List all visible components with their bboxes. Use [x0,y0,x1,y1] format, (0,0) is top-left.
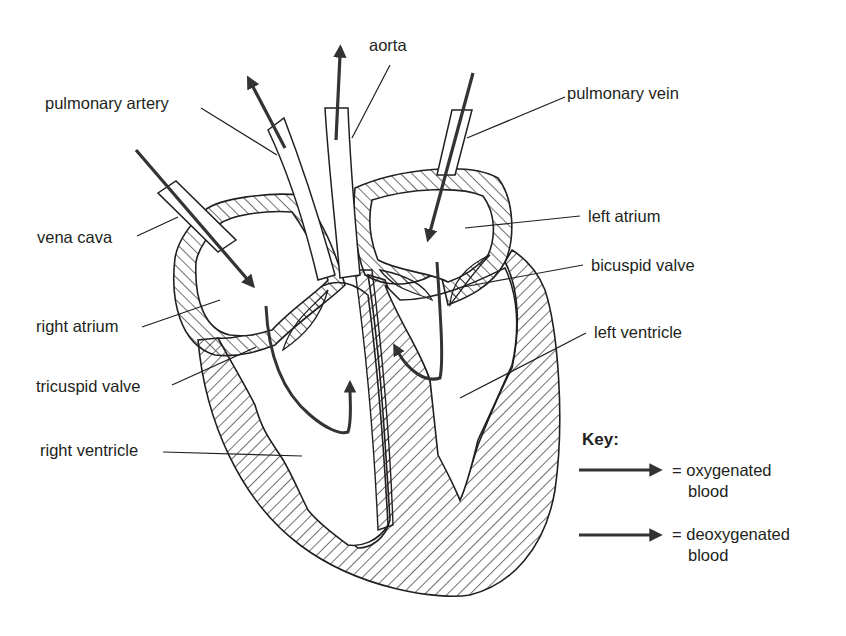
label-left-atrium: left atrium [588,207,660,225]
label-vena-cava: vena cava [37,228,112,246]
label-pulmonary-artery: pulmonary artery [45,94,169,112]
key-item-oxygenated: = oxygenated blood [672,460,772,502]
label-left-ventricle: left ventricle [594,323,682,341]
key-item-oxygenated-line1: = oxygenated [672,460,772,481]
label-right-atrium: right atrium [36,317,119,335]
key-item-deoxygenated-line2: blood [672,545,790,566]
key-item-oxygenated-line2: blood [672,481,772,502]
label-bicuspid-valve: bicuspid valve [591,256,695,274]
label-pulmonary-vein: pulmonary vein [567,84,679,102]
label-aorta: aorta [369,36,407,54]
flow-arrow-pulmonary-artery [252,85,285,148]
label-tricuspid-valve: tricuspid valve [36,377,141,395]
label-right-ventricle: right ventricle [40,441,138,459]
key-title: Key: [582,430,619,450]
key-item-deoxygenated: = deoxygenated blood [672,524,790,566]
key-item-deoxygenated-line1: = deoxygenated [672,524,790,545]
